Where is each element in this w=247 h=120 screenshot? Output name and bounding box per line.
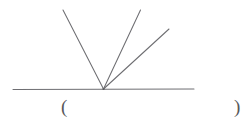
ray-middle bbox=[104, 10, 141, 89]
answer-blank-field[interactable] bbox=[72, 98, 232, 118]
ray-left bbox=[63, 10, 104, 89]
vertex-point bbox=[102, 88, 104, 90]
figure-container: ( ) bbox=[0, 0, 247, 120]
ray-right bbox=[104, 29, 170, 89]
close-paren: ) bbox=[234, 96, 240, 118]
open-paren: ( bbox=[61, 96, 67, 118]
answer-row: ( ) bbox=[0, 96, 247, 120]
